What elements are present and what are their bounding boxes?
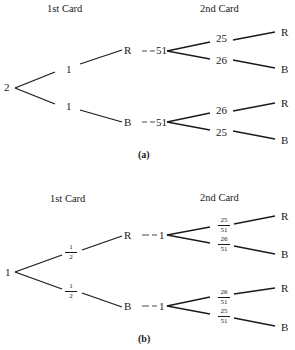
tree-lines	[0, 0, 295, 350]
caption-a: (a)	[138, 150, 150, 160]
second-prob-rb: 2651	[218, 236, 230, 253]
root-probability: 1	[5, 267, 11, 278]
leaf-bb: B	[281, 135, 288, 146]
leaf-bb: B	[281, 322, 288, 333]
leaf-rr: R	[281, 27, 288, 38]
second-weight-br: 26	[216, 105, 227, 116]
leaf-rr: R	[281, 211, 288, 222]
second-prob-bb: 2551	[218, 308, 230, 325]
leaf-rb: B	[281, 249, 288, 260]
link-count-red: 51	[156, 45, 167, 56]
second-weight-rr: 25	[216, 33, 227, 44]
first-prob-red: 12	[65, 244, 77, 261]
first-weight-black: 1	[66, 101, 72, 112]
node-black: B	[124, 117, 131, 128]
leaf-rb: B	[281, 64, 288, 75]
link-count-black: 51	[156, 117, 167, 128]
link-prob-black: 1	[159, 301, 165, 312]
second-weight-rb: 26	[216, 55, 227, 66]
first-prob-black: 12	[65, 283, 77, 300]
second-weight-bb: 25	[216, 127, 227, 138]
header-second-card: 2nd Card	[200, 193, 239, 204]
first-weight-red: 1	[66, 64, 72, 75]
leaf-br: R	[281, 98, 288, 109]
header-first-card: 1st Card	[50, 194, 85, 205]
root-count: 2	[4, 82, 10, 93]
header-first-card: 1st Card	[47, 4, 82, 15]
node-black: B	[124, 301, 131, 312]
header-second-card: 2nd Card	[200, 4, 239, 15]
second-prob-br: 2651	[218, 289, 230, 306]
node-red: R	[124, 230, 131, 241]
caption-b: (b)	[138, 334, 150, 344]
node-red: R	[124, 45, 131, 56]
leaf-br: R	[281, 283, 288, 294]
second-prob-rr: 2551	[218, 217, 230, 234]
link-prob-red: 1	[159, 230, 165, 241]
